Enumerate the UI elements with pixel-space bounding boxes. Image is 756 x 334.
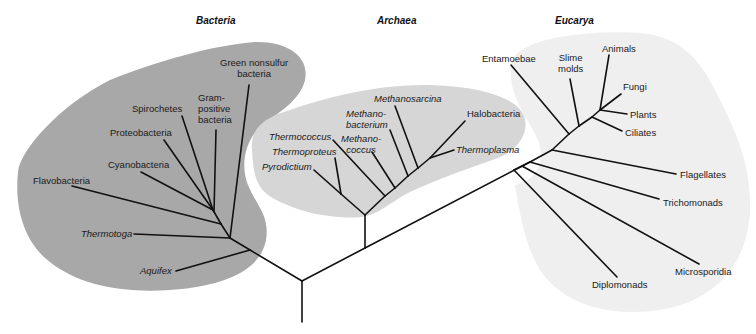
taxon-thermotoga: Thermotoga xyxy=(81,228,132,239)
taxon-plants: Plants xyxy=(630,109,656,120)
taxon-aquifex: Aquifex xyxy=(140,265,172,276)
taxon-thermococcus: Thermococcus xyxy=(269,131,331,142)
taxon-label-line1: Methano- xyxy=(341,133,381,144)
taxon-cyanobacteria: Cyanobacteria xyxy=(108,159,169,170)
taxon-pyrodictium: Pyrodictium xyxy=(262,161,312,172)
taxon-proteobacteria: Proteobacteria xyxy=(110,127,172,138)
taxon-fungi: Fungi xyxy=(623,81,647,92)
taxon-label-line3: bacteria xyxy=(198,114,232,125)
taxon-halobacteria: Halobacteria xyxy=(467,108,520,119)
taxon-trichomonads: Trichomonads xyxy=(663,197,723,208)
taxon-green-nonsulfur-bacteria: Green nonsulfur bacteria xyxy=(220,57,288,79)
taxon-ciliates: Ciliates xyxy=(625,127,656,138)
taxon-label-line2: coccus xyxy=(341,144,381,155)
taxon-thermoplasma: Thermoplasma xyxy=(456,144,519,155)
domain-title-eucarya: Eucarya xyxy=(555,15,594,26)
taxon-animals: Animals xyxy=(602,43,636,54)
taxon-label-line1: Green nonsulfur xyxy=(220,57,288,68)
taxon-label-line1: Slime xyxy=(558,52,583,63)
taxon-spirochetes: Spirochetes xyxy=(132,103,182,114)
taxon-label-line2: positive xyxy=(198,103,232,114)
taxon-label-line1: Gram- xyxy=(198,92,232,103)
taxon-methanobacterium: Methano- bacterium xyxy=(346,108,388,130)
taxon-flagellates: Flagellates xyxy=(680,169,726,180)
domain-title-bacteria: Bacteria xyxy=(196,15,235,26)
taxon-entamoebae: Entamoebae xyxy=(482,53,536,64)
taxon-diplomonads: Diplomonads xyxy=(592,279,647,290)
taxon-label-line1: Methano- xyxy=(346,108,388,119)
taxon-methanococcus: Methano- coccus xyxy=(341,133,381,155)
taxon-microsporidia: Microsporidia xyxy=(675,266,732,277)
taxon-label-line2: molds xyxy=(558,63,583,74)
taxon-gram-positive-bacteria: Gram- positive bacteria xyxy=(198,92,232,125)
taxon-slime-molds: Slime molds xyxy=(558,52,583,74)
taxon-label-line2: bacterium xyxy=(346,119,388,130)
domain-title-archaea: Archaea xyxy=(377,15,416,26)
taxon-label-line2: bacteria xyxy=(220,68,288,79)
taxon-thermoproteus: Thermoproteus xyxy=(272,146,336,157)
taxon-methanosarcina: Methanosarcina xyxy=(374,93,442,104)
taxon-flavobacteria: Flavobacteria xyxy=(33,175,90,186)
